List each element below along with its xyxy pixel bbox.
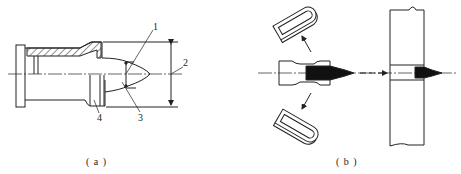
callout-3: 3: [138, 113, 143, 123]
flange: [16, 45, 25, 107]
sleeve-half-top: [273, 4, 321, 42]
callout-1: 1: [153, 22, 158, 32]
callout-2: 2: [183, 58, 188, 68]
leader-2: [171, 67, 183, 74]
caption-a: ( a ): [86, 156, 107, 167]
nail-embedded: [415, 67, 442, 78]
sleeve-half-bottom: [273, 109, 321, 147]
diagram-canvas: [0, 0, 461, 174]
nail-black: [306, 66, 354, 80]
caption-b: ( b ): [336, 156, 358, 167]
panel-a-drawing: [8, 30, 183, 113]
leader-1: [126, 30, 153, 74]
hatched-sleeve: [27, 42, 101, 58]
panel-b-drawing: [258, 4, 458, 147]
callout-4: 4: [97, 113, 102, 123]
